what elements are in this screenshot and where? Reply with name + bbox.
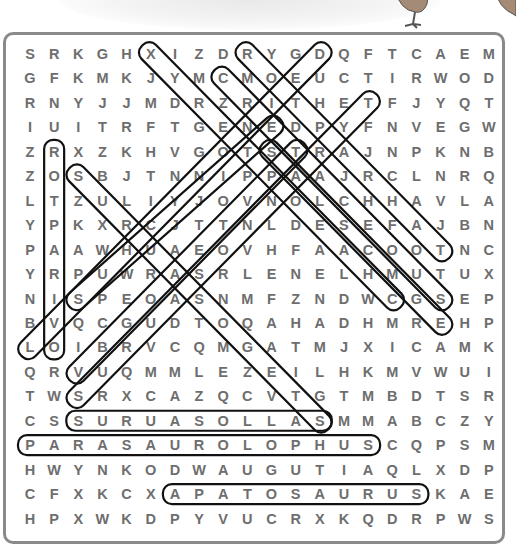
grid-letter[interactable]: B [19, 312, 41, 334]
grid-letter[interactable]: F [43, 483, 65, 505]
grid-letter[interactable]: M [381, 312, 403, 334]
grid-letter[interactable]: E [357, 214, 379, 236]
grid-letter[interactable]: E [333, 92, 355, 114]
grid-letter[interactable]: P [67, 263, 89, 285]
grid-letter[interactable]: R [19, 92, 41, 114]
grid-letter[interactable]: H [116, 43, 138, 65]
grid-letter[interactable]: C [333, 190, 355, 212]
grid-letter[interactable]: N [381, 141, 403, 163]
grid-letter[interactable]: A [430, 43, 452, 65]
grid-letter[interactable]: I [212, 165, 234, 187]
grid-letter[interactable]: N [164, 165, 186, 187]
grid-letter[interactable]: D [405, 385, 427, 407]
grid-letter[interactable]: T [236, 141, 258, 163]
grid-letter[interactable]: O [405, 239, 427, 261]
grid-letter[interactable]: N [261, 190, 283, 212]
grid-letter[interactable]: C [430, 410, 452, 432]
grid-letter[interactable]: S [188, 410, 210, 432]
grid-letter[interactable]: R [116, 410, 138, 432]
grid-letter[interactable]: A [309, 483, 331, 505]
grid-letter[interactable]: R [43, 141, 65, 163]
grid-letter[interactable]: S [333, 214, 355, 236]
grid-letter[interactable]: A [285, 165, 307, 187]
grid-letter[interactable]: L [116, 190, 138, 212]
grid-letter[interactable]: U [236, 459, 258, 481]
grid-letter[interactable]: X [67, 508, 89, 530]
grid-letter[interactable]: B [381, 385, 403, 407]
grid-letter[interactable]: O [261, 434, 283, 456]
grid-letter[interactable]: E [454, 288, 476, 310]
grid-letter[interactable]: P [91, 288, 113, 310]
grid-letter[interactable]: S [67, 288, 89, 310]
grid-letter[interactable]: P [430, 434, 452, 456]
grid-letter[interactable]: Q [116, 361, 138, 383]
grid-letter[interactable]: D [212, 43, 234, 65]
grid-letter[interactable]: V [261, 385, 283, 407]
grid-letter[interactable]: J [116, 165, 138, 187]
grid-letter[interactable]: T [357, 92, 379, 114]
grid-letter[interactable]: R [212, 263, 234, 285]
grid-letter[interactable]: W [188, 459, 210, 481]
grid-letter[interactable]: M [357, 410, 379, 432]
grid-letter[interactable]: J [188, 190, 210, 212]
grid-letter[interactable]: T [357, 67, 379, 89]
grid-letter[interactable]: M [212, 336, 234, 358]
grid-letter[interactable]: W [430, 361, 452, 383]
grid-letter[interactable]: L [261, 410, 283, 432]
grid-letter[interactable]: G [309, 385, 331, 407]
grid-letter[interactable]: K [67, 214, 89, 236]
grid-letter[interactable]: I [285, 361, 307, 383]
grid-letter[interactable]: C [357, 239, 379, 261]
grid-letter[interactable]: S [454, 385, 476, 407]
grid-letter[interactable]: T [164, 116, 186, 138]
grid-letter[interactable]: J [91, 92, 113, 114]
grid-letter[interactable]: V [164, 141, 186, 163]
grid-letter[interactable]: U [140, 410, 162, 432]
grid-letter[interactable]: N [43, 92, 65, 114]
grid-letter[interactable]: O [454, 67, 476, 89]
grid-letter[interactable]: B [454, 214, 476, 236]
grid-letter[interactable]: T [19, 385, 41, 407]
grid-letter[interactable]: Y [164, 67, 186, 89]
grid-letter[interactable]: R [357, 165, 379, 187]
grid-letter[interactable]: P [188, 483, 210, 505]
grid-letter[interactable]: W [116, 263, 138, 285]
grid-letter[interactable]: A [333, 239, 355, 261]
grid-letter[interactable]: X [67, 141, 89, 163]
grid-letter[interactable]: K [116, 67, 138, 89]
grid-letter[interactable]: E [212, 361, 234, 383]
grid-letter[interactable]: L [19, 190, 41, 212]
grid-letter[interactable]: G [188, 141, 210, 163]
grid-letter[interactable]: D [333, 312, 355, 334]
grid-letter[interactable]: R [478, 385, 500, 407]
grid-letter[interactable]: U [454, 263, 476, 285]
grid-letter[interactable]: F [357, 116, 379, 138]
grid-letter[interactable]: C [381, 165, 403, 187]
grid-letter[interactable]: R [405, 67, 427, 89]
grid-letter[interactable]: O [43, 165, 65, 187]
grid-letter[interactable]: K [333, 508, 355, 530]
grid-letter[interactable]: Z [19, 165, 41, 187]
grid-letter[interactable]: O [43, 336, 65, 358]
grid-letter[interactable]: A [405, 214, 427, 236]
grid-letter[interactable]: Z [188, 43, 210, 65]
grid-letter[interactable]: A [261, 336, 283, 358]
grid-letter[interactable]: A [164, 288, 186, 310]
grid-letter[interactable]: C [405, 336, 427, 358]
grid-letter[interactable]: N [212, 288, 234, 310]
grid-letter[interactable]: C [19, 410, 41, 432]
grid-letter[interactable]: H [381, 190, 403, 212]
grid-letter[interactable]: D [164, 312, 186, 334]
grid-letter[interactable]: N [285, 263, 307, 285]
grid-letter[interactable]: W [91, 508, 113, 530]
grid-letter[interactable]: H [357, 263, 379, 285]
grid-letter[interactable]: H [309, 434, 331, 456]
grid-letter[interactable]: Q [357, 508, 379, 530]
grid-letter[interactable]: Z [212, 92, 234, 114]
grid-letter[interactable]: H [19, 508, 41, 530]
grid-letter[interactable]: V [405, 116, 427, 138]
grid-letter[interactable]: M [357, 385, 379, 407]
grid-letter[interactable]: J [430, 214, 452, 236]
grid-letter[interactable]: X [116, 385, 138, 407]
grid-letter[interactable]: C [164, 336, 186, 358]
